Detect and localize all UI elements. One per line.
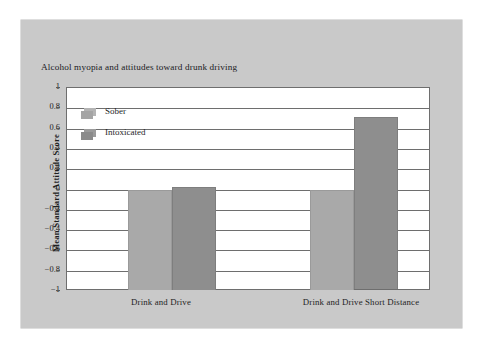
ytick-mark-0.2 (56, 168, 60, 169)
ytick-mark-0.8 (56, 107, 60, 108)
xtick-label-drink-and-drive: Drink and Drive (107, 297, 215, 307)
legend-label-intoxicated: Intoxicated (105, 127, 145, 137)
xtick-label-drink-and-drive-short-distance: Drink and Drive Short Distance (276, 297, 446, 307)
ytick-mark-0 (56, 189, 60, 190)
ytick-mark-n0.4 (56, 229, 60, 230)
legend-swatch-sober-icon (81, 108, 96, 119)
bar-drink-and-drive-intoxicated (172, 187, 216, 290)
legend-label-sober: Sober (105, 106, 126, 116)
legend-swatch-intoxicated-icon (81, 129, 96, 140)
ytick-mark-n0.8 (56, 270, 60, 271)
bar-short-distance-sober (310, 190, 354, 290)
ytick-mark-n1 (56, 290, 60, 291)
figure-root: Alcohol myopia and attitudes toward drun… (0, 0, 484, 347)
ytick-mark-n0.2 (56, 209, 60, 210)
legend-item-sober: Sober (81, 105, 211, 126)
chart-legend: Sober Intoxicated (81, 105, 211, 147)
bar-drink-and-drive-sober (128, 190, 172, 290)
legend-item-intoxicated: Intoxicated (81, 126, 211, 147)
ytick-mark-n0.6 (56, 249, 60, 250)
ytick-mark-1 (56, 87, 60, 88)
ytick-mark-0.6 (56, 128, 60, 129)
bar-short-distance-intoxicated (354, 117, 398, 289)
ytick-mark-0.4 (56, 148, 60, 149)
chart-title: Alcohol myopia and attitudes toward drun… (41, 62, 237, 72)
y-axis-ticks: 1 0.8 0.6 0.4 0.2 0 −0.2 −0.4 −0.6 −0.8 … (30, 87, 60, 290)
